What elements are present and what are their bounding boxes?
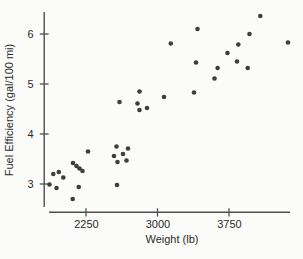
y-tick-label: 6 [27, 28, 33, 40]
data-point [236, 42, 241, 47]
data-point [235, 59, 240, 64]
data-point [86, 149, 91, 154]
data-point [225, 51, 230, 56]
data-point [121, 152, 126, 157]
y-tick-label: 5 [27, 78, 33, 90]
x-ticks-group: 225030003750 [74, 208, 241, 229]
y-tick-label: 3 [27, 178, 33, 190]
data-point [169, 41, 174, 46]
data-point [195, 27, 200, 32]
data-point [76, 185, 81, 190]
x-tick-label: 3000 [146, 218, 170, 230]
x-tick-label: 2250 [74, 218, 98, 230]
x-tick-label: 3750 [217, 218, 241, 230]
scatter-plot-figure: 225030003750 3456 Fuel Efficiency (gal/1… [0, 0, 303, 259]
data-points-group [47, 14, 290, 202]
data-point [70, 197, 75, 202]
data-point [135, 101, 140, 106]
data-point [117, 100, 122, 105]
data-point [115, 160, 120, 165]
data-point [247, 32, 252, 37]
data-point [126, 146, 131, 151]
data-point [145, 106, 150, 111]
data-point [61, 175, 66, 180]
data-point [286, 40, 291, 45]
data-point [54, 186, 59, 191]
data-point [47, 182, 52, 187]
data-point [258, 14, 263, 19]
data-point [57, 170, 62, 175]
data-point [71, 161, 76, 166]
data-point [115, 183, 120, 188]
data-point [80, 169, 85, 174]
data-point [112, 154, 117, 159]
data-point [137, 89, 142, 94]
data-point [245, 66, 250, 71]
y-ticks-group: 3456 [27, 28, 48, 190]
data-point [162, 95, 167, 100]
data-point [215, 66, 220, 71]
x-axis-title: Weight (lb) [92, 233, 252, 245]
y-tick-label: 4 [27, 128, 33, 140]
data-point [124, 158, 129, 163]
y-axis-title: Fuel Efficiency (gal/100 mi) [3, 15, 17, 205]
data-point [194, 60, 199, 65]
data-point [192, 90, 197, 95]
data-point [51, 172, 56, 177]
scatter-svg: 225030003750 3456 [0, 0, 303, 259]
data-point [114, 144, 119, 149]
data-point [137, 108, 142, 113]
data-point [212, 76, 217, 81]
